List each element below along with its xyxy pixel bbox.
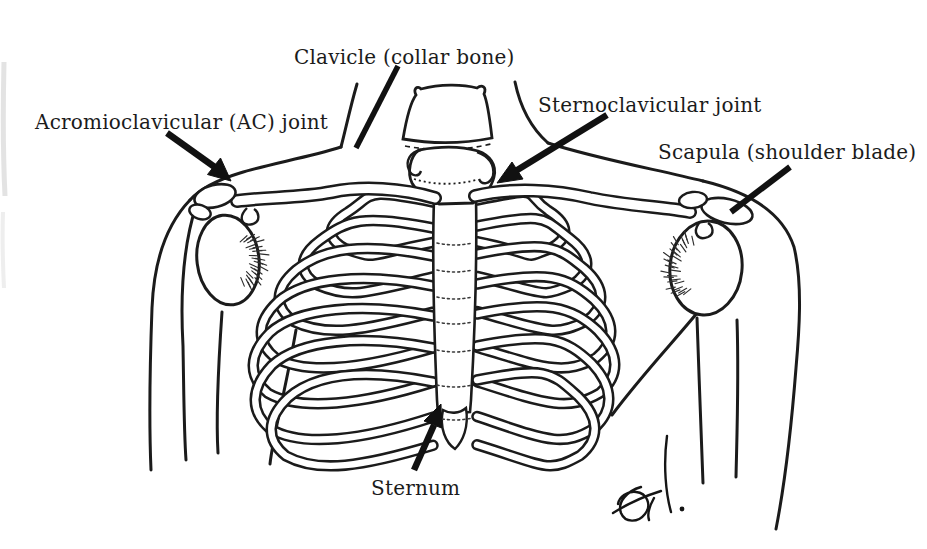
label-acromioclavicular-joint: Acromioclavicular (AC) joint [35,112,328,132]
sternum-body [433,197,476,414]
sc-joint-arrow [497,115,607,183]
label-sternoclavicular-joint: Sternoclavicular joint [538,95,762,115]
right-humerus-shaft-line [697,318,703,483]
left-humerus-head [192,212,265,309]
vertebra [403,85,492,143]
clavicle-leader-line [356,66,398,148]
right-torso-line [612,302,706,415]
hatch-stroke [260,266,268,271]
hatch-stroke [664,253,672,258]
left-neck-line [341,84,357,147]
right-arm-inner-line [736,320,738,477]
neck-vertebrae [403,85,495,204]
label-sternum: Sternum [371,478,460,498]
left-coracoid-hook [242,208,259,225]
ac-joint-arrow [167,133,231,181]
skeleton-drawing [0,0,927,549]
left-humerus-shaft-line [217,312,222,453]
left-arm-inner-line [182,206,196,460]
xiphoid-process [442,408,467,449]
label-clavicle: Clavicle (collar bone) [294,47,515,67]
scan-artifact [3,62,5,288]
hatch-stroke [260,254,269,255]
label-scapula: Scapula (shoulder blade) [658,142,916,162]
signature [613,436,684,521]
anatomy-figure: Acromioclavicular (AC) joint Clavicle (c… [0,0,927,549]
